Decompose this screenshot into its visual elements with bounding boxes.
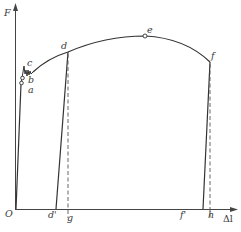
y-axis-label: F: [3, 7, 11, 18]
h-label: h: [208, 209, 214, 220]
unloading-line-f: [203, 62, 210, 209]
d-prime-label: d': [48, 209, 57, 220]
point-b-label: b: [28, 74, 34, 85]
force-elongation-diagram: F O Δl a b c d e f d' g f' h: [0, 0, 241, 232]
point-e-label: e: [147, 24, 153, 35]
hardening-curve: [33, 36, 210, 72]
x-axis-label: Δl: [223, 213, 233, 224]
g-label: g: [67, 212, 73, 223]
y-axis-arrow-icon: [13, 3, 18, 11]
x-axis-arrow-icon: [230, 207, 238, 212]
point-b-marker: [21, 76, 25, 80]
f-prime-label: f': [179, 209, 186, 220]
point-c-label: c: [27, 57, 33, 68]
point-f-label: f: [210, 50, 216, 61]
elastic-line-oa: [16, 84, 21, 209]
point-a-label: a: [28, 84, 34, 95]
unloading-line-d: [56, 52, 68, 209]
point-d-label: d: [61, 40, 67, 51]
point-a-marker: [20, 81, 24, 85]
origin-label: O: [5, 208, 13, 219]
